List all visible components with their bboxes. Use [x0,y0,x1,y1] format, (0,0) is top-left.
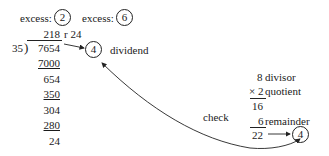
quotient-value: 2 [258,86,264,97]
step-4: 304 [26,105,60,116]
quotient: 218 [26,29,60,40]
remainder-value: 6 [258,116,264,127]
step-6: 24 [26,136,60,147]
step-2: 654 [26,74,60,85]
divisor-label: divisor [265,72,296,83]
sum: 22 [252,130,263,141]
check-curve-arrow [102,63,250,148]
step-5: 280 [26,120,60,131]
quotient-label: quotient [265,86,301,97]
excess-label-1: excess: [20,13,52,24]
product-rule [250,98,266,99]
dividend-label: dividend [110,45,149,56]
times-sign: × [249,86,255,97]
remainder-label: r 24 [64,29,81,40]
sum-rule [250,127,266,128]
excess-circle-1: 2 [54,9,71,26]
divisor: 35 [12,43,23,54]
dividend: 7654 [26,43,60,54]
excess-label-2: excess: [82,13,114,24]
division-bar [27,40,62,41]
product: 16 [252,101,263,112]
excess-circle-2: 6 [116,9,133,26]
step-3: 350 [26,89,60,100]
result-excess-circle: 4 [292,126,309,143]
dividend-arrow [64,44,84,48]
divisor-value: 8 [257,72,263,83]
dividend-excess-circle: 4 [85,41,102,58]
step-1: 7000 [26,58,60,69]
check-label: check [203,112,229,123]
